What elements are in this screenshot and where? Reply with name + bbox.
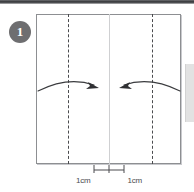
measurement-labels: 1cm 1cm <box>76 176 142 185</box>
center-line <box>109 14 110 164</box>
top-divider-rule <box>0 0 194 4</box>
measurement-bracket <box>93 164 125 174</box>
left-fold-line <box>68 14 69 164</box>
diagram-canvas: 1 1cm 1cm <box>0 0 194 192</box>
right-edge-strip <box>185 64 194 122</box>
right-fold-line <box>152 14 153 164</box>
measurement-label-right: 1cm <box>127 176 142 185</box>
measurement-label-left: 1cm <box>76 176 91 185</box>
step-number-badge: 1 <box>9 21 31 43</box>
